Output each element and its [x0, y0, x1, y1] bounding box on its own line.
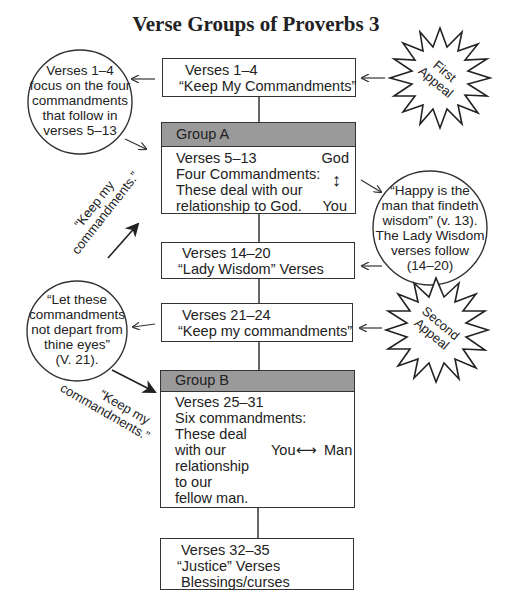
up-down-arrow-icon: ↕	[332, 167, 341, 193]
relation-you: You	[271, 442, 295, 458]
box6-line2: “Justice” Verses	[177, 558, 353, 574]
note-line: wisdom” (v. 13).	[375, 213, 485, 228]
note-circle-left-1-text: Verses 1–4 focus on the four commandment…	[28, 63, 132, 138]
box6-line3: Blessings/curses	[181, 574, 353, 590]
arrow-keep-to-groupA	[108, 224, 138, 258]
note-line: verses 5–13	[28, 123, 132, 138]
relation-you: You	[323, 198, 347, 214]
group-b-line: relationship	[175, 458, 354, 474]
group-b-line: Six commandments:	[175, 410, 354, 426]
note-line: focus on the four	[28, 78, 132, 93]
note-line: “Let these	[27, 292, 127, 307]
note-line: commandments	[27, 307, 127, 322]
group-b-line: Verses 25–31	[175, 394, 354, 410]
group-b-line: to our	[175, 474, 354, 490]
group-b-header: Group B	[161, 371, 354, 392]
group-b-line: fellow man.	[175, 490, 354, 506]
note-circle-left-2-text: “Let these commandments not depart from …	[27, 292, 127, 367]
verses-14-20-box: Verses 14–20 “Lady Wisdom” Verses	[161, 242, 355, 279]
note-line: not depart from	[27, 322, 127, 337]
group-a-line: These deal with our	[176, 182, 355, 198]
relation-man: Man	[324, 442, 352, 458]
arrow-circle2-to-groupB	[112, 370, 155, 392]
note-line: verses follow	[375, 243, 485, 258]
group-a-header: Group A	[162, 123, 355, 147]
box1-line1: Verses 1–4	[185, 62, 355, 78]
left-right-arrow-icon: ⟷	[296, 442, 317, 458]
group-b-box: Group B Verses 25–31 Six commandments: T…	[160, 370, 355, 508]
note-line: that follow in	[28, 108, 132, 123]
note-line: (14–20)	[375, 258, 485, 273]
note-line: (V. 21).	[27, 352, 127, 367]
note-line: Verses 1–4	[28, 63, 132, 78]
note-circle-right-text: “Happy is the man that findeth wisdom” (…	[375, 183, 485, 273]
arrow-box4-to-circle2	[133, 324, 155, 327]
note-line: man that findeth	[375, 198, 485, 213]
box6-line1: Verses 32–35	[181, 542, 353, 558]
note-line: thine eyes”	[27, 337, 127, 352]
box3-line2: “Lady Wisdom” Verses	[178, 261, 354, 277]
relation-god: God	[322, 150, 349, 166]
arrow-circle1-to-groupA	[125, 139, 146, 149]
group-b-line: These deal	[175, 426, 354, 442]
box3-line1: Verses 14–20	[182, 245, 354, 261]
note-line: “Happy is the	[375, 183, 485, 198]
box4-line2: “Keep my commandments”	[178, 323, 352, 339]
note-line: The Lady Wisdom	[375, 228, 485, 243]
verses-21-24-box: Verses 21–24 “Keep my commandments”	[161, 303, 353, 342]
note-line: commandments	[28, 93, 132, 108]
group-a-line: Four Commandments:	[176, 166, 355, 182]
box4-line1: Verses 21–24	[182, 307, 352, 323]
group-a-box: Group A Verses 5–13 Four Commandments: T…	[161, 122, 356, 214]
box1-line2: “Keep My Commandments”	[179, 78, 355, 94]
verses-32-35-box: Verses 32–35 “Justice” Verses Blessings/…	[160, 538, 354, 590]
verses-1-4-box: Verses 1–4 “Keep My Commandments”	[162, 58, 356, 97]
